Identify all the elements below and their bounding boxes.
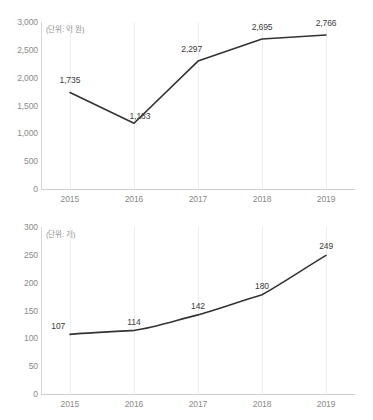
y-tick: 0 bbox=[2, 389, 38, 399]
data-label: 2,297 bbox=[181, 44, 202, 54]
x-tick: 2016 bbox=[125, 399, 144, 409]
data-label: 142 bbox=[191, 301, 205, 311]
y-tick: 250 bbox=[2, 250, 38, 260]
y-tick: 0 bbox=[2, 184, 38, 194]
y-tick: 2,500 bbox=[2, 45, 38, 55]
plot-area: 107 114 142 180 249 bbox=[41, 227, 355, 394]
x-tick: 2015 bbox=[61, 194, 80, 204]
clipped-header-text: — — — —— —— — — — — — bbox=[0, 0, 373, 3]
x-tick: 2018 bbox=[253, 194, 272, 204]
x-axis-ticks: 2015 2016 2017 2018 2019 bbox=[41, 396, 355, 414]
data-label: 2,766 bbox=[316, 18, 337, 28]
data-label: 1,735 bbox=[59, 75, 80, 85]
revenue-line-chart: (단위: 억 원) 3,000 2,500 2,000 1,500 1,000 … bbox=[0, 8, 373, 208]
x-axis-line bbox=[41, 394, 355, 395]
y-tick: 500 bbox=[2, 156, 38, 166]
x-tick: 2016 bbox=[125, 194, 144, 204]
clipped-header: — — — —— —— — — — — — bbox=[0, 0, 373, 3]
x-tick: 2017 bbox=[189, 399, 208, 409]
x-tick: 2017 bbox=[189, 194, 208, 204]
y-tick: 300 bbox=[2, 222, 38, 232]
y-tick: 100 bbox=[2, 333, 38, 343]
y-axis-ticks: 300 250 200 150 100 50 0 bbox=[0, 227, 38, 394]
y-tick: 150 bbox=[2, 306, 38, 316]
y-tick: 50 bbox=[2, 361, 38, 371]
data-label: 180 bbox=[255, 281, 269, 291]
data-label: 114 bbox=[127, 317, 140, 327]
y-tick: 2,000 bbox=[2, 73, 38, 83]
data-label: 249 bbox=[319, 241, 333, 251]
chart-page: — — — —— —— — — — — — (단위: 억 원) 3,000 2,… bbox=[0, 0, 373, 420]
x-tick: 2019 bbox=[317, 194, 336, 204]
x-tick: 2019 bbox=[317, 399, 336, 409]
count-line-chart: (단위: 개) 300 250 200 150 100 50 0 107 114… bbox=[0, 213, 373, 413]
data-label: 1,183 bbox=[130, 111, 151, 121]
x-tick: 2018 bbox=[253, 399, 272, 409]
x-axis-ticks: 2015 2016 2017 2018 2019 bbox=[41, 191, 355, 209]
y-tick: 1,500 bbox=[2, 101, 38, 111]
x-axis-line bbox=[41, 189, 355, 190]
y-tick: 200 bbox=[2, 278, 38, 288]
data-label: 2,695 bbox=[252, 22, 273, 32]
y-axis-ticks: 3,000 2,500 2,000 1,500 1,000 500 0 bbox=[0, 22, 38, 189]
y-tick: 1,000 bbox=[2, 128, 38, 138]
x-tick: 2015 bbox=[61, 399, 80, 409]
y-tick: 3,000 bbox=[2, 17, 38, 27]
data-label: 107 bbox=[51, 321, 65, 331]
plot-area: 1,735 1,183 2,297 2,695 2,766 bbox=[41, 22, 355, 189]
